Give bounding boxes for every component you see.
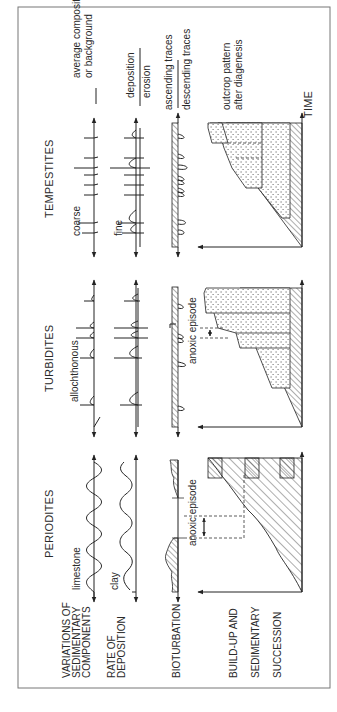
legend-ascending-traces: ascending traces [163, 34, 174, 110]
label-buildup-3: SUCCESSION [272, 612, 283, 678]
legend-background-1: average composition [71, 0, 82, 78]
tempestites-bioturbation-band [172, 123, 178, 247]
legend-background-2: or background [83, 14, 94, 78]
periodites-clay-label: clay [109, 572, 120, 590]
outcrop-label-2: after diagenesis [233, 39, 244, 110]
turbidites-allochthonous-label: allochthonous [69, 340, 80, 402]
outcrop-label-1: outcrop pattern [221, 43, 232, 110]
label-rate-2: DEPOSITION [116, 616, 127, 678]
tempestites-coarse-label: coarse [71, 206, 82, 236]
turbidites-title: TURBIDITES [43, 325, 55, 392]
label-variations-3: COMPONENTS [81, 606, 92, 678]
time-axis-label: TIME [302, 91, 314, 118]
legend-erosion: erosion [141, 65, 152, 98]
periodites-anoxic-label: anoxic episode [187, 479, 198, 546]
diagram-canvas: VARIATIONS OF SEDIMENTARY COMPONENTS RAT… [0, 0, 337, 712]
legend-deposition: deposition [125, 52, 136, 98]
turbidites-anoxic-label: anoxic episode [187, 297, 198, 364]
tempestites-fine-label: fine [113, 219, 124, 236]
figure: VARIATIONS OF SEDIMENTARY COMPONENTS RAT… [0, 0, 337, 712]
turbidites-bioturbation-band [172, 287, 178, 427]
label-buildup-2: SEDIMENTARY [250, 606, 261, 678]
periodites-title: PERIODITES [43, 489, 55, 558]
periodites-limestone-label: limestone [71, 547, 82, 590]
legend-descending-traces: descending traces [181, 29, 192, 110]
label-buildup-1: BUILD-UP AND [228, 608, 239, 678]
tempestites-title: TEMPESTITES [43, 139, 55, 218]
label-bioturbation: BIOTURBATION [171, 604, 182, 678]
